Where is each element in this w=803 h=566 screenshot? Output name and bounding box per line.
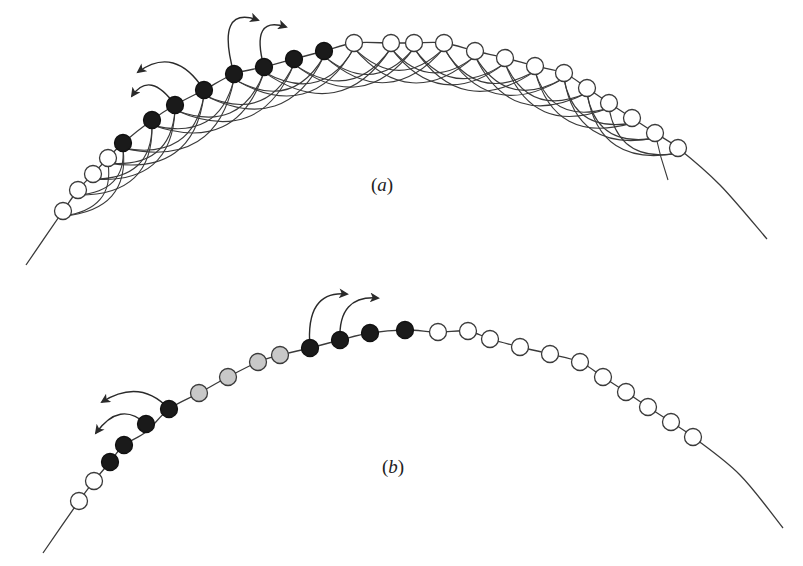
node-open bbox=[100, 150, 117, 167]
panel-a-curve bbox=[26, 42, 767, 265]
node-filled bbox=[332, 332, 349, 349]
node-grey bbox=[250, 354, 267, 371]
node-open bbox=[663, 414, 680, 431]
node-filled bbox=[144, 112, 161, 129]
range-link-arc bbox=[414, 48, 505, 79]
node-open bbox=[85, 166, 102, 183]
node-open bbox=[70, 182, 87, 199]
panel-a-label: (a) bbox=[371, 174, 393, 196]
node-open bbox=[572, 354, 589, 371]
node-filled bbox=[302, 340, 319, 357]
node-filled bbox=[316, 43, 333, 60]
range-link-arc bbox=[264, 48, 354, 84]
node-open bbox=[512, 339, 529, 356]
diagram-canvas bbox=[0, 0, 803, 566]
node-open bbox=[685, 429, 702, 446]
panel-b-chain bbox=[43, 294, 783, 553]
node-filled bbox=[115, 135, 132, 152]
node-filled bbox=[102, 454, 119, 471]
node-grey bbox=[191, 385, 208, 402]
node-grey bbox=[272, 347, 289, 364]
node-filled bbox=[196, 82, 213, 99]
node-open bbox=[601, 95, 618, 112]
node-open bbox=[640, 399, 657, 416]
node-open bbox=[482, 331, 499, 348]
panel-b-label-text: b bbox=[388, 456, 398, 477]
node-open bbox=[346, 35, 363, 52]
node-open bbox=[497, 50, 514, 67]
node-open bbox=[436, 35, 453, 52]
node-open bbox=[595, 369, 612, 386]
node-open bbox=[542, 346, 559, 363]
node-filled bbox=[397, 322, 414, 339]
node-open bbox=[624, 110, 641, 127]
panel-b-nodes bbox=[71, 322, 702, 510]
node-open bbox=[670, 140, 687, 157]
panel-b-hop-arrows bbox=[96, 294, 378, 433]
node-open bbox=[579, 80, 596, 97]
node-filled bbox=[286, 51, 303, 68]
node-filled bbox=[161, 401, 178, 418]
node-open bbox=[55, 203, 72, 220]
node-open bbox=[430, 324, 447, 341]
node-open bbox=[406, 35, 423, 52]
node-filled bbox=[167, 97, 184, 114]
node-open bbox=[647, 125, 664, 142]
hop-arrow-icon bbox=[138, 62, 204, 90]
node-open bbox=[556, 65, 573, 82]
node-filled bbox=[362, 325, 379, 342]
node-open bbox=[71, 493, 88, 510]
panel-a-chain bbox=[26, 17, 767, 265]
hop-arrow-icon bbox=[102, 392, 169, 409]
panel-a-label-text: a bbox=[377, 174, 387, 195]
node-grey bbox=[220, 369, 237, 386]
node-open bbox=[467, 43, 484, 60]
panel-b-curve bbox=[43, 330, 783, 553]
node-filled bbox=[138, 416, 155, 433]
node-open bbox=[383, 35, 400, 52]
node-open bbox=[86, 473, 103, 490]
node-open bbox=[527, 58, 544, 75]
node-filled bbox=[256, 59, 273, 76]
range-link-arc bbox=[564, 78, 632, 124]
node-filled bbox=[116, 437, 133, 454]
node-filled bbox=[226, 66, 243, 83]
node-open bbox=[618, 384, 635, 401]
node-open bbox=[460, 323, 477, 340]
range-link-arc bbox=[123, 95, 204, 150]
panel-b-label: (b) bbox=[382, 456, 404, 478]
